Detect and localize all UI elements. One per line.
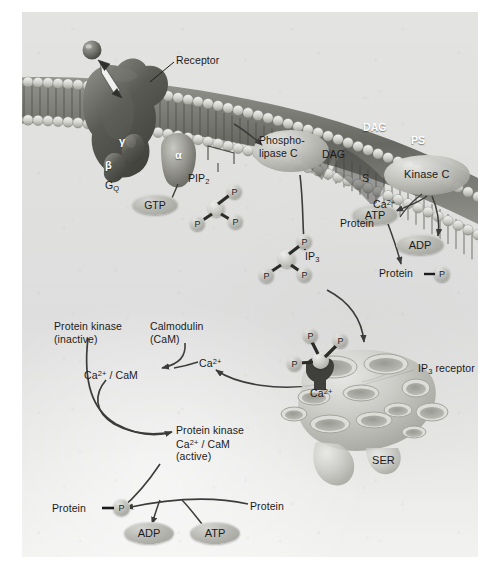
calmodulin-line-1: Calmodulin (150, 320, 204, 333)
label-ip3: IP3 (305, 250, 319, 267)
label-s: S (362, 172, 369, 185)
label-receptor: Receptor (176, 54, 219, 67)
figure-canvas: P P P P P P (0, 0, 491, 569)
label-ps: PS (411, 134, 425, 147)
label-protein-kinase-active: Protein kinase Ca2+ / CaM (active) (176, 424, 244, 463)
label-ip3-receptor: IP3 receptor (418, 362, 475, 379)
label-gq: GQ (105, 179, 119, 196)
label-beta: β (105, 159, 112, 172)
pk-active-line-1: Protein kinase (176, 424, 244, 437)
label-alpha: α (175, 149, 182, 162)
label-kinase-c: Kinase C (404, 168, 449, 181)
label-pip2: PIP2 (188, 172, 210, 189)
label-ca-kinase: Ca2+ (373, 197, 395, 211)
pk-active-line-2: Ca2+ / CaM (176, 437, 244, 451)
label-protein-bottom-right: Protein (250, 500, 284, 513)
calmodulin-line-2: (CaM) (150, 333, 204, 346)
diagram-plate: P P P P P P (22, 12, 478, 557)
label-calmodulin: Calmodulin (CaM) (150, 320, 204, 345)
label-ca-free: Ca2+ (199, 356, 221, 370)
label-ser: SER (372, 454, 395, 467)
label-protein-p-top: Protein (379, 267, 413, 280)
label-protein-p-bottom: Protein (52, 502, 86, 515)
label-dag-cytosol: DAG (322, 148, 345, 161)
pk-inactive-line-1: Protein kinase (54, 320, 122, 333)
label-protein-kinase-inactive: Protein kinase (inactive) (54, 320, 122, 345)
protein-p-bonds (22, 12, 478, 557)
pk-inactive-line-2: (inactive) (54, 333, 122, 346)
label-ca-ser: Ca2+ (310, 386, 332, 400)
plc-line-2: lipase C (259, 147, 305, 160)
label-phospholipase-c: Phospho- lipase C (259, 134, 305, 159)
pk-active-line-3: (active) (176, 450, 244, 463)
plc-line-1: Phospho- (259, 134, 305, 147)
label-protein-kinase-c-substrate: Protein (340, 217, 374, 230)
label-ca-cam: Ca2+ / CaM (84, 368, 138, 382)
label-gamma: γ (119, 135, 125, 148)
label-dag-membrane: DAG (363, 121, 387, 134)
